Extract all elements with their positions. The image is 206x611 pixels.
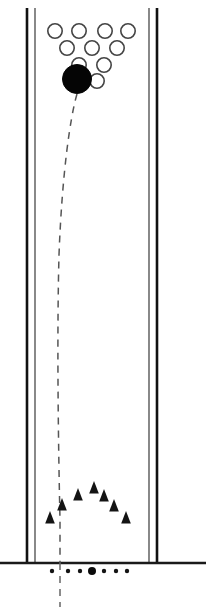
- floor-dot: [102, 569, 106, 573]
- triangle-marker: [99, 489, 109, 501]
- triangle-marker: [89, 481, 99, 493]
- open-ball: [48, 24, 62, 38]
- right-wall-group: [149, 8, 157, 563]
- open-ball: [97, 58, 111, 72]
- figure-canvas: [0, 0, 206, 611]
- floor-dot: [66, 569, 70, 573]
- floor-dot-row: [50, 567, 129, 575]
- floor-dot: [50, 569, 54, 573]
- open-ball: [90, 74, 104, 88]
- open-ball: [60, 41, 74, 55]
- triangle-marker: [45, 511, 55, 523]
- triangle-marker: [109, 499, 119, 511]
- triangle-marker-arc: [45, 481, 131, 523]
- triangle-marker: [73, 488, 83, 500]
- struck-ball: [63, 65, 92, 94]
- floor-dot: [125, 569, 129, 573]
- open-ball: [98, 24, 112, 38]
- triangle-marker: [121, 511, 131, 523]
- trajectory-dashed-curve: [58, 94, 77, 563]
- floor-dot: [114, 569, 118, 573]
- open-ball: [121, 24, 135, 38]
- open-ball: [85, 41, 99, 55]
- physics-trajectory-figure: [0, 0, 206, 611]
- left-wall-group: [27, 8, 35, 563]
- open-ball: [110, 41, 124, 55]
- triangle-marker: [57, 498, 67, 510]
- open-ball: [72, 24, 86, 38]
- floor-dot-major: [88, 567, 96, 575]
- floor-dot: [78, 569, 82, 573]
